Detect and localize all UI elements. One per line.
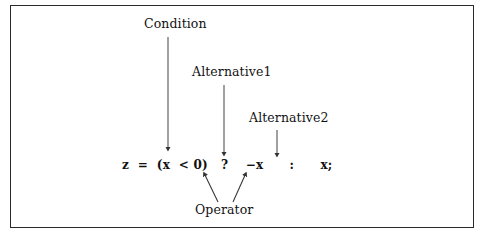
label-operator: Operator [195,204,253,217]
diagram-figure: Condition Alternative1 Alternative2 Oper… [0,0,481,245]
figure-border [10,5,474,228]
label-alternative1: Alternative1 [192,66,272,79]
label-condition: Condition [144,18,207,31]
label-alternative2: Alternative2 [249,112,329,125]
code-expression: z = (x < 0) ? −x : x; [122,159,332,171]
